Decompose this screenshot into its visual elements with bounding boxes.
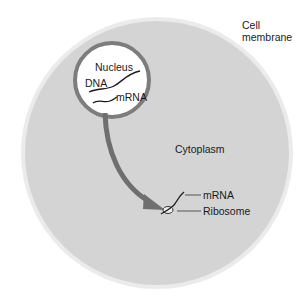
cell-membrane-label-line1: Cell xyxy=(242,20,260,31)
cytoplasm-label: Cytoplasm xyxy=(175,144,225,155)
ribosome-label: Ribosome xyxy=(203,206,250,217)
mrna-nucleus-label: mRNA xyxy=(116,92,147,103)
cytoplasm xyxy=(25,21,289,285)
nucleus-label: Nucleus xyxy=(95,62,133,73)
mrna-cytoplasm-label: mRNA xyxy=(203,190,234,201)
cell-diagram xyxy=(0,0,305,306)
dna-label: DNA xyxy=(85,78,107,89)
cell-membrane-label-line2: membrane xyxy=(242,32,292,43)
